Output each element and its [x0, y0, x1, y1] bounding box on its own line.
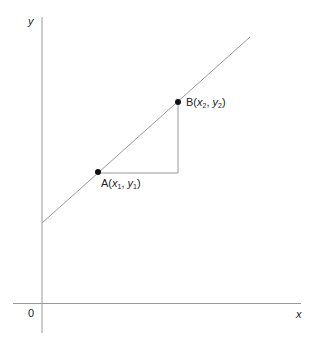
point-b-marker: [175, 99, 181, 105]
y-axis-label: y: [28, 16, 34, 27]
point-b-label: B(x2, y2): [186, 97, 226, 109]
origin-label: 0: [28, 308, 34, 319]
x-axis-label: x: [296, 309, 302, 320]
straight-line: [42, 37, 250, 223]
coordinate-diagram: [0, 0, 320, 343]
point-a-label: A(x1, y1): [101, 178, 141, 190]
point-a-marker: [95, 169, 101, 175]
